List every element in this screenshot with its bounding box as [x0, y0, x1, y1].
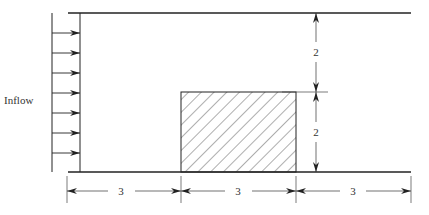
- svg-text:2: 2: [313, 46, 319, 58]
- dim-upstream: 3: [67, 185, 181, 197]
- inflow-label: Inflow: [4, 94, 33, 106]
- dim-upper-gap: 2: [313, 13, 319, 92]
- svg-text:3: 3: [118, 185, 124, 197]
- obstacle-block: [181, 92, 296, 172]
- inflow-arrows: [52, 33, 80, 153]
- channel-flow-diagram: Inflow 3 3 3 2 2: [0, 0, 429, 215]
- dim-block-height: 2: [313, 92, 319, 172]
- dim-block-width: 3: [181, 185, 296, 197]
- dim-downstream: 3: [296, 185, 411, 197]
- svg-text:3: 3: [235, 185, 241, 197]
- svg-text:2: 2: [313, 126, 319, 138]
- svg-text:3: 3: [350, 185, 356, 197]
